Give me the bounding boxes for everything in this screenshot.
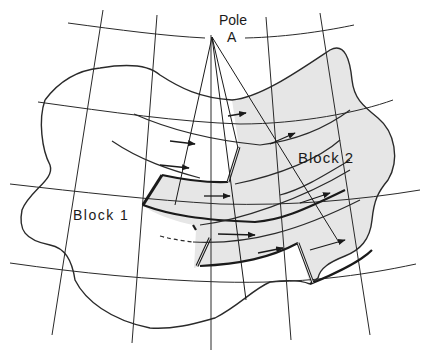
- block1-label: Block 1: [73, 207, 129, 223]
- pole-label-letter: A: [227, 29, 237, 45]
- diagram-figure: Pole A Block 2 Block 1: [0, 0, 424, 354]
- block2-label: Block 2: [298, 149, 354, 166]
- arrow-icon: [170, 141, 195, 144]
- block1-outline: [45, 66, 232, 100]
- pole-label: Pole: [219, 12, 247, 28]
